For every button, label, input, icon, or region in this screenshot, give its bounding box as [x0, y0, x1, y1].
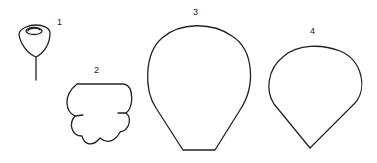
- shape-1-rosebud: [19, 25, 50, 80]
- shape-2-lobed-petal: [67, 84, 132, 144]
- label-4: 4: [310, 27, 315, 36]
- label-3: 3: [193, 8, 198, 17]
- label-2: 2: [94, 66, 99, 75]
- shape-4-teardrop-petal: [269, 46, 362, 148]
- shape-3-balloon-petal: [148, 26, 251, 150]
- label-1: 1: [57, 18, 62, 27]
